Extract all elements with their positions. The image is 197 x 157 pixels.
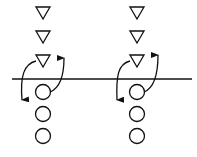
right-column xyxy=(117,7,158,144)
circle-icon xyxy=(130,85,145,100)
curved-arrow-down xyxy=(117,61,130,100)
triangle-icon xyxy=(36,55,50,67)
triangle-icon xyxy=(130,31,144,43)
triangle-icon xyxy=(130,7,144,19)
curved-arrow-down xyxy=(22,61,36,100)
circle-icon xyxy=(36,107,51,122)
curved-arrow-up xyxy=(144,55,158,92)
diagram-canvas xyxy=(0,0,197,157)
circle-icon xyxy=(36,85,51,100)
curved-arrow-up xyxy=(50,58,64,92)
circle-icon xyxy=(36,129,51,144)
circle-icon xyxy=(130,129,145,144)
triangle-icon xyxy=(130,55,144,67)
circle-icon xyxy=(130,107,145,122)
left-column xyxy=(22,7,64,144)
triangle-icon xyxy=(36,31,50,43)
triangle-icon xyxy=(36,7,50,19)
